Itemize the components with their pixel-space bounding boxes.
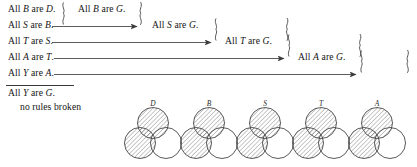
- conclusion: All Y are G.: [8, 88, 55, 98]
- derived-3: All T are G.: [225, 36, 272, 46]
- venn-label-d: D: [143, 99, 163, 108]
- venn-diagram: [237, 108, 294, 159]
- venn-circle-bottom-left: [237, 128, 268, 159]
- brace-group-4: [361, 50, 409, 73]
- venn-circle-bottom-left: [349, 128, 380, 159]
- venn-circle-top: [194, 108, 225, 139]
- venn-diagram: [181, 108, 238, 159]
- venn-circle-bottom-left: [293, 128, 324, 159]
- venn-label-t: T: [311, 99, 331, 108]
- venn-diagram: [293, 108, 350, 159]
- venn-circle-top: [138, 108, 169, 139]
- derived-1: All B are G.: [78, 4, 126, 14]
- connector-overlay: [0, 0, 417, 167]
- premise-5: All Y are A.: [8, 68, 54, 78]
- premise-1: All B are D.: [8, 4, 56, 14]
- venn-circle-top: [362, 108, 393, 139]
- venn-circle-top: [250, 108, 281, 139]
- premise-4: All A are T.: [8, 52, 54, 62]
- no-rules-broken-note: no rules broken: [20, 102, 81, 112]
- venn-circle-bottom-right: [207, 128, 238, 159]
- derived-4: All A are G.: [298, 52, 346, 62]
- venn-circle-bottom-right: [263, 128, 294, 159]
- premise-divider: [6, 85, 74, 86]
- venn-label-a: A: [367, 99, 387, 108]
- venn-label-s: S: [255, 99, 275, 108]
- premise-3: All T are S.: [8, 36, 53, 46]
- venn-circle-bottom-right: [151, 128, 182, 159]
- venn-label-b: B: [199, 99, 219, 108]
- derived-2: All S are G.: [152, 20, 199, 30]
- figure-canvas: All B are D. All S are B. All T are S. A…: [0, 0, 417, 167]
- venn-diagram: [349, 108, 406, 159]
- venn-circle-bottom-left: [181, 128, 212, 159]
- venn-circle-bottom-right: [319, 128, 350, 159]
- venn-diagram-row: [0, 0, 417, 167]
- venn-circle-bottom-left: [125, 128, 156, 159]
- venn-circle-top: [306, 108, 337, 139]
- premise-2: All S are B.: [8, 20, 53, 30]
- venn-circle-bottom-right: [375, 128, 406, 159]
- venn-diagram: [125, 108, 182, 159]
